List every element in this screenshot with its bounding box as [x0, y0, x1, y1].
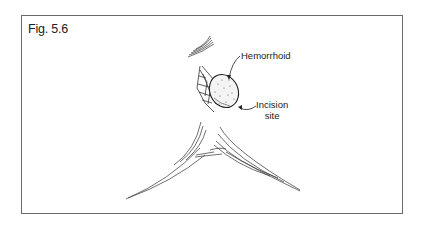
hemorrhoid-mass	[204, 70, 244, 113]
perianal-folds	[126, 122, 300, 199]
incision-label-line2: site	[256, 110, 288, 121]
incision-label-line1: Incision	[256, 99, 288, 110]
upper-hatching	[188, 36, 214, 57]
incision-leader-line	[240, 106, 256, 110]
hemorrhoid-label: Hemorrhoid	[241, 50, 291, 61]
hemorrhoid-illustration	[0, 0, 425, 232]
incision-arrowhead	[238, 105, 242, 110]
incision-site-label: Incision site	[256, 99, 288, 121]
hemorrhoid-leader-line	[229, 56, 240, 78]
